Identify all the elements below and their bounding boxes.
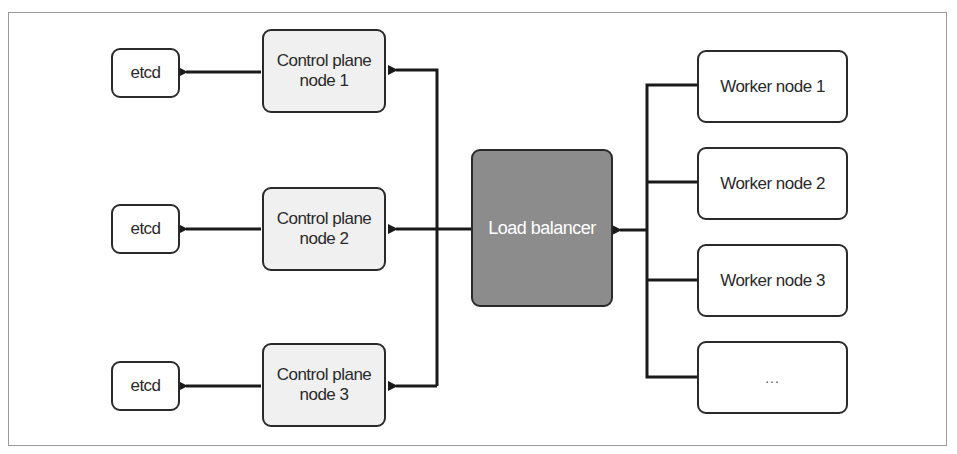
worker-node-3: Worker node 3 (697, 244, 848, 317)
control-plane-label-line1: Control plane (277, 51, 372, 71)
control-plane-label-line2: node 3 (277, 385, 372, 405)
load-balancer: Load balancer (471, 149, 613, 307)
etcd-node-2: etcd (111, 204, 180, 254)
control-plane-label-line1: Control plane (277, 209, 372, 229)
control-plane-node-3: Control plane node 3 (262, 343, 386, 427)
ellipsis-label: ... (765, 368, 780, 388)
control-plane-label-line1: Control plane (277, 365, 372, 385)
etcd-node-3: etcd (111, 361, 180, 411)
etcd-node-label: etcd (130, 219, 160, 239)
worker-node-label: Worker node 3 (720, 271, 825, 291)
control-plane-label-line2: node 1 (277, 71, 372, 91)
worker-node-1: Worker node 1 (697, 50, 848, 123)
etcd-node-1: etcd (111, 48, 180, 98)
control-plane-label-line2: node 2 (277, 229, 372, 249)
control-plane-node-2: Control plane node 2 (262, 187, 386, 271)
worker-node-2: Worker node 2 (697, 147, 848, 220)
worker-node-more: ... (697, 341, 848, 414)
worker-node-label: Worker node 2 (720, 174, 825, 194)
etcd-node-label: etcd (130, 63, 160, 83)
load-balancer-label: Load balancer (488, 218, 596, 238)
etcd-node-label: etcd (130, 376, 160, 396)
worker-node-label: Worker node 1 (720, 77, 825, 97)
control-plane-node-1: Control plane node 1 (262, 29, 386, 113)
